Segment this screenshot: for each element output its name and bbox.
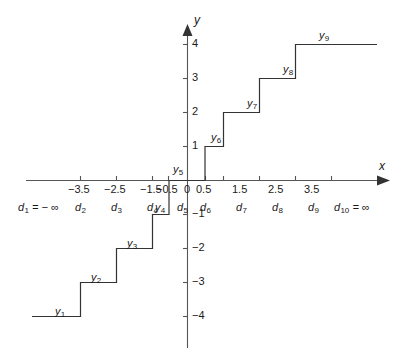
y-tick-label-neg3: −3 [192,276,205,287]
x-tick-label-neg3p5: −3.5 [68,184,90,195]
x-tick-label-0: 0 [184,184,190,195]
level-label-y8: y8 [283,64,293,77]
decision-label-d2: d2 [75,202,86,215]
x-tick-label-1p5: 1.5 [232,184,247,195]
quantizer-step-function-figure: x y 4 3 2 1 −1 −2 −3 −4 −3.5 −2.5 −1.5 −… [0,0,404,363]
x-tick-label-0p5: 0.5 [196,184,211,195]
decision-label-d7: d7 [236,202,247,215]
decision-label-d1: d1 = − ∞ [18,202,59,215]
level-label-y7: y7 [247,98,257,111]
x-tick-label-neg2p5: −2.5 [104,184,126,195]
y-tick-label-2: 2 [192,106,198,117]
decision-label-d9: d9 [308,202,319,215]
x-tick-label-2p5: 2.5 [268,184,283,195]
level-label-y9: y9 [319,30,329,43]
x-tick-label-3p5: 3.5 [304,184,319,195]
y-tick-label-1: 1 [192,140,198,151]
decision-label-d3: d3 [111,202,122,215]
x-axis-label: x [379,160,385,172]
level-label-y5: y5 [173,164,183,177]
x-tick-label-neg0p5: −0.5 [156,184,178,195]
y-axis-label: y [194,14,200,26]
y-tick-label-neg2: −2 [192,242,205,253]
level-label-y1: y1 [55,306,65,319]
level-label-y3: y3 [127,238,137,251]
decision-label-d5: d5 [177,202,188,215]
decision-label-d8: d8 [272,202,283,215]
y-tick-label-neg4: −4 [192,310,205,321]
level-label-y4: y4 [155,202,165,215]
decision-label-d6: d6 [200,202,211,215]
y-tick-label-4: 4 [192,38,198,49]
level-label-y2: y2 [91,272,101,285]
level-label-y6: y6 [211,132,221,145]
y-tick-label-3: 3 [192,72,198,83]
decision-label-d10: d10 = ∞ [334,202,370,215]
